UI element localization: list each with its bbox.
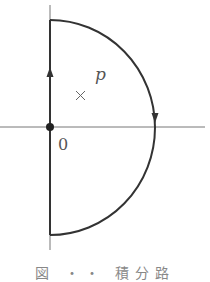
origin-dot (46, 123, 54, 131)
pole-label: p (95, 64, 106, 84)
arrow-down-icon (152, 113, 159, 123)
pole-marker-icon (76, 91, 85, 100)
figure-caption: 図 ・・ 積分路 (0, 262, 210, 282)
origin-label: 0 (58, 135, 68, 154)
arrow-up-icon (47, 67, 54, 77)
